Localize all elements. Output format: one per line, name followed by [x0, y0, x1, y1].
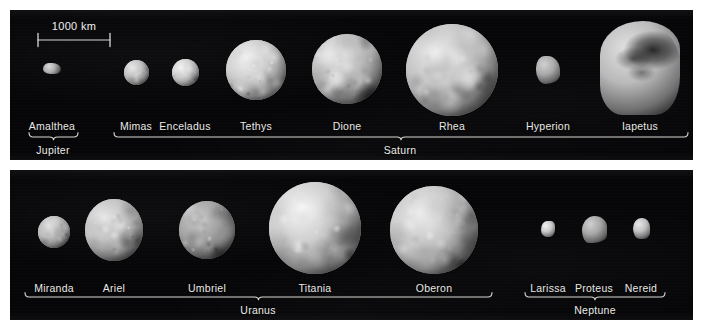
top-row-plate: AmaltheaJupiterMimasEnceladusTethysDione… [10, 10, 693, 160]
moon-label-proteus: Proteus [575, 282, 613, 294]
moon-label-tethys: Tethys [240, 120, 272, 132]
moon-label-enceladus: Enceladus [159, 120, 210, 132]
moon-size-comparison-figure: AmaltheaJupiterMimasEnceladusTethysDione… [0, 0, 703, 330]
moon-label-larissa: Larissa [530, 282, 566, 294]
moon-label-amalthea: Amalthea [29, 120, 75, 132]
planet-label-neptune: Neptune [574, 304, 615, 316]
moon-label-miranda: Miranda [34, 282, 74, 294]
moon-label-mimas: Mimas [120, 120, 152, 132]
moon-label-oberon: Oberon [416, 282, 453, 294]
planet-label-uranus: Uranus [240, 304, 275, 316]
top-row-rules [10, 10, 693, 160]
bracket-jupiter [29, 133, 78, 141]
planet-label-saturn: Saturn [384, 144, 416, 156]
bracket-saturn [114, 133, 688, 141]
bottom-row-content: MirandaArielUmbrielTitaniaOberonUranusLa… [10, 170, 693, 320]
planet-label-jupiter: Jupiter [36, 144, 69, 156]
moon-label-dione: Dione [333, 120, 362, 132]
scale-bar-label: 1000 km [52, 20, 96, 32]
moon-label-nereid: Nereid [625, 282, 657, 294]
top-row-content: AmaltheaJupiterMimasEnceladusTethysDione… [10, 10, 693, 160]
bottom-row-plate: MirandaArielUmbrielTitaniaOberonUranusLa… [10, 170, 693, 320]
moon-label-titania: Titania [299, 282, 332, 294]
bottom-row-rules [10, 170, 693, 320]
moon-label-rhea: Rhea [439, 120, 465, 132]
moon-label-iapetus: Iapetus [622, 120, 658, 132]
moon-label-ariel: Ariel [103, 282, 125, 294]
moon-label-umbriel: Umbriel [188, 282, 226, 294]
moon-label-hyperion: Hyperion [526, 120, 570, 132]
